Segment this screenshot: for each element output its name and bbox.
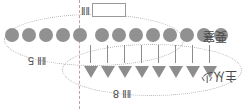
triangle-7: [186, 66, 200, 78]
triangle-4: [135, 66, 149, 78]
connector-3: [118, 45, 132, 63]
circle-right-4: [146, 28, 160, 42]
connector-4: [135, 45, 149, 63]
triangle-3: [118, 66, 132, 78]
circle-left-1: [5, 28, 19, 42]
connector-2: [101, 45, 115, 63]
bottom-right-side-label: 主从少: [201, 70, 237, 82]
triangle-2: [101, 66, 115, 78]
left-group-count-label: ‖‖ 5: [28, 55, 46, 66]
connector-5: [152, 45, 166, 63]
triangle-1: [84, 66, 98, 78]
group-gap: [90, 35, 92, 36]
top-right-side-label: 要塞: [203, 30, 227, 42]
connector-8: [203, 45, 217, 63]
circle-right-3: [129, 28, 143, 42]
circle-left-3: [39, 28, 53, 42]
top-label-group: ‖‖: [81, 3, 126, 17]
connector-1: [84, 45, 98, 63]
triangle-5: [152, 66, 166, 78]
connector-6: [169, 45, 183, 63]
circle-right-5: [163, 28, 177, 42]
circle-right-2: [112, 28, 126, 42]
circle-left-5: [73, 28, 87, 42]
top-label-glyph: ‖‖: [81, 5, 90, 16]
circle-row: [5, 28, 228, 42]
circle-right-6: [180, 28, 194, 42]
top-empty-box[interactable]: [92, 3, 126, 17]
right-group-count-label: ‖‖ 8: [113, 88, 131, 99]
circle-left-2: [22, 28, 36, 42]
circle-right-1: [95, 28, 109, 42]
vertical-divider-line: [79, 0, 80, 109]
triangle-row: [84, 66, 217, 78]
connector-row: [84, 45, 217, 63]
triangle-6: [169, 66, 183, 78]
diagram-canvas: ‖‖ ‖‖: [0, 0, 242, 109]
connector-7: [186, 45, 200, 63]
circle-left-4: [56, 28, 70, 42]
